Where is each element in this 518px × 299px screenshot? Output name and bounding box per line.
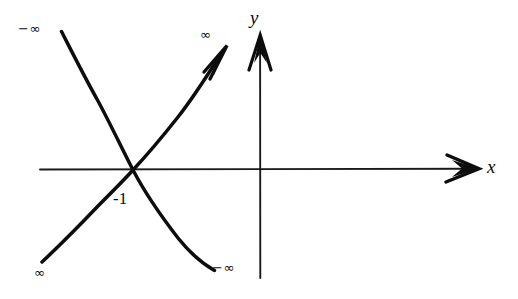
intercept-value-label: -1 — [113, 190, 127, 207]
x-axis-label: x — [487, 157, 495, 176]
limit-label-top-left: −∞ — [18, 22, 41, 35]
graph-figure: −∞ ∞ ∞ −∞ -1 y x — [0, 0, 518, 299]
curve-decreasing-branch — [62, 32, 215, 271]
graph-canvas — [0, 0, 518, 299]
limit-label-bottom-right: −∞ — [212, 261, 235, 274]
limit-label-top-right: ∞ — [200, 28, 211, 41]
curve-increasing-branch — [42, 57, 219, 262]
limit-label-bottom-left: ∞ — [34, 266, 45, 279]
y-axis-label: y — [250, 8, 258, 27]
x-axis-line — [40, 169, 468, 170]
